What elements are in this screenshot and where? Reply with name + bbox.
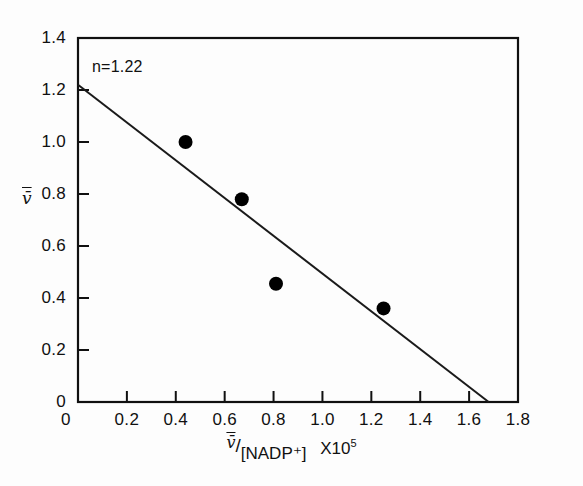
y-axis-title-text: v̄ <box>22 188 32 208</box>
regression-line <box>78 85 489 402</box>
x-axis-tick-label: 0.2 <box>115 410 140 430</box>
data-point <box>269 277 283 291</box>
data-point-markers <box>179 135 391 315</box>
y-axis-tick-label: 1.4 <box>0 28 66 48</box>
x-axis-tick-label: 0 <box>61 410 71 430</box>
plot-frame-rect <box>78 38 518 402</box>
y-axis-tick-label: 0.2 <box>0 340 66 360</box>
y-axis-tick-label: 1.0 <box>0 132 66 152</box>
x-axis-title: v̄/[NADP⁺] X105 <box>0 437 583 460</box>
x-axis-tick-label: 1.0 <box>310 410 335 430</box>
x-axis-tick-label: 1.4 <box>408 410 433 430</box>
x-axis-tick-label: 0.6 <box>212 410 237 430</box>
y-axis-title: v̄ <box>22 188 32 208</box>
x-axis-tick-label: 0.8 <box>261 410 286 430</box>
x-axis-tick-label: 1.2 <box>359 410 384 430</box>
x-axis-tick-label: 1.8 <box>506 410 531 430</box>
y-axis-tick-label: 0.6 <box>0 236 66 256</box>
data-point <box>377 301 391 315</box>
x-axis-tick-marks <box>127 391 469 402</box>
scatchard-plot-figure: 00.20.40.60.81.01.21.4 00.20.40.60.81.01… <box>0 0 583 486</box>
n-value-annotation: n=1.22 <box>92 58 143 76</box>
plot-canvas <box>0 0 583 486</box>
x-axis-denominator: [NADP⁺] <box>241 444 307 463</box>
y-axis-tick-label: 0 <box>0 392 66 412</box>
y-axis-tick-label: 0.8 <box>0 184 66 204</box>
data-point <box>179 135 193 149</box>
axis-frame <box>78 38 518 402</box>
x-axis-tick-label: 0.4 <box>163 410 188 430</box>
x-axis-multiplier-exponent: 5 <box>350 437 356 449</box>
x-axis-slash: / <box>235 435 240 456</box>
x-axis-tick-label: 1.6 <box>457 410 482 430</box>
x-axis-multiplier-base: X10 <box>320 439 350 458</box>
y-axis-tick-label: 1.2 <box>0 80 66 100</box>
x-axis-fraction: v̄/[NADP⁺] <box>226 437 306 459</box>
x-axis-multiplier: X105 <box>320 439 356 458</box>
data-point <box>235 192 249 206</box>
fitted-regression-line <box>78 85 489 402</box>
y-axis-tick-label: 0.4 <box>0 288 66 308</box>
